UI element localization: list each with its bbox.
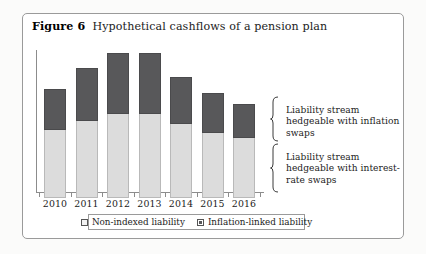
x-axis-label-2015: 2015	[196, 198, 230, 209]
x-axis-tick-3	[134, 193, 135, 197]
bar-segment-inflation-linked-2013	[139, 53, 161, 114]
y-axis	[36, 50, 37, 192]
bar-segment-non-indexed-2012	[107, 114, 129, 198]
bar-2012	[107, 53, 129, 198]
bar-2010	[44, 89, 66, 198]
x-axis-label-2013: 2013	[133, 198, 167, 209]
x-axis-label-2012: 2012	[101, 198, 135, 209]
legend-swatch-icon-1	[197, 219, 204, 226]
brace-interest-rate-icon	[270, 143, 279, 193]
figure-caption: Hypothetical cashflows of a pension plan	[92, 20, 327, 33]
bar-segment-non-indexed-2014	[170, 124, 192, 198]
bar-2014	[170, 77, 192, 198]
bar-segment-inflation-linked-2015	[202, 93, 224, 133]
annotation-inflation-swaps: Liability stream hedgeable with inflatio…	[286, 105, 406, 139]
legend-item-inflation-linked: Inflation-linked liability	[197, 217, 312, 227]
x-axis-tick-4	[165, 193, 166, 197]
x-axis-label-2010: 2010	[38, 198, 72, 209]
bar-segment-inflation-linked-2010	[44, 89, 66, 130]
x-axis-tick-1	[71, 193, 72, 197]
bar-segment-non-indexed-2011	[76, 121, 98, 198]
bar-segment-non-indexed-2013	[139, 114, 161, 198]
bar-2015	[202, 93, 224, 198]
legend-label-0: Non-indexed liability	[92, 217, 185, 227]
bar-segment-inflation-linked-2014	[170, 77, 192, 124]
brace-inflation-icon	[270, 96, 279, 142]
legend-label-1: Inflation-linked liability	[208, 217, 312, 227]
annotation-interest-rate-swaps: Liability stream hedgeable with interest…	[286, 152, 406, 186]
x-axis-tick-7	[260, 193, 261, 197]
chart-legend: Non-indexed liabilityInflation-linked li…	[88, 214, 305, 230]
x-axis-tick-0	[39, 193, 40, 197]
x-axis-tick-6	[228, 193, 229, 197]
figure-number: Figure 6	[32, 20, 85, 33]
bar-2011	[76, 68, 98, 198]
x-axis-label-2014: 2014	[164, 198, 198, 209]
bar-segment-inflation-linked-2016	[233, 104, 255, 138]
bar-segment-inflation-linked-2012	[107, 53, 129, 114]
x-axis-label-2011: 2011	[70, 198, 104, 209]
chart-plot-area: 2010201120122013201420152016	[30, 44, 270, 204]
bar-2016	[233, 104, 255, 198]
bar-segment-non-indexed-2015	[202, 133, 224, 198]
x-axis-label-2016: 2016	[227, 198, 261, 209]
bar-segment-non-indexed-2016	[233, 138, 255, 198]
bar-2013	[139, 53, 161, 198]
bar-segment-non-indexed-2010	[44, 130, 66, 198]
legend-swatch-icon-0	[81, 219, 88, 226]
x-axis-tick-5	[197, 193, 198, 197]
page-title: Figure 6 Hypothetical cashflows of a pen…	[32, 20, 392, 33]
x-axis-tick-2	[102, 193, 103, 197]
legend-item-non-indexed: Non-indexed liability	[81, 217, 185, 227]
bar-segment-inflation-linked-2011	[76, 68, 98, 121]
